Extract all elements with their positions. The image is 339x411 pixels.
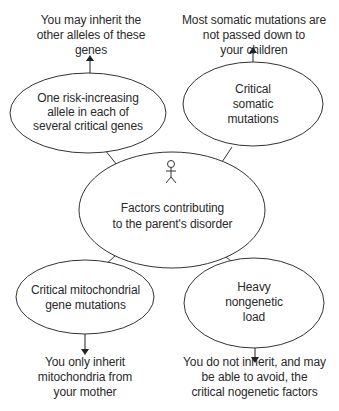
note-mitochondrial: You only inherit mitochondria from your … bbox=[15, 355, 155, 400]
node-nongenetic-label: Heavy nongenetic load bbox=[204, 280, 304, 325]
note-line: genes bbox=[16, 43, 166, 58]
center-label-line: Factors contributing bbox=[95, 200, 250, 216]
node-risk-alleles-label: One risk-increasing allele in each of se… bbox=[18, 91, 158, 133]
note-risk-alleles: You may inherit the other alleles of the… bbox=[16, 13, 166, 58]
node-label-line: mutations bbox=[203, 112, 303, 127]
node-label-line: somatic bbox=[203, 97, 303, 112]
node-label-line: gene mutations bbox=[18, 298, 153, 313]
connector-somatic bbox=[222, 147, 232, 162]
node-label-line: several critical genes bbox=[18, 119, 158, 133]
node-label-line: Critical bbox=[203, 82, 303, 97]
note-line: your children bbox=[174, 43, 334, 58]
note-line: You only inherit bbox=[15, 355, 155, 370]
note-somatic: Most somatic mutations are not passed do… bbox=[174, 13, 334, 58]
node-somatic-label: Critical somatic mutations bbox=[203, 82, 303, 127]
note-line: Most somatic mutations are bbox=[174, 13, 334, 28]
node-label-line: Critical mitochondrial bbox=[18, 283, 153, 298]
node-label-line: nongenetic bbox=[204, 295, 304, 310]
node-label-line: One risk-increasing bbox=[18, 91, 158, 105]
note-line: You may inherit the bbox=[16, 13, 166, 28]
node-label-line: Heavy bbox=[204, 280, 304, 295]
note-line: critical nogenetic factors bbox=[170, 385, 339, 400]
node-label-line: load bbox=[204, 310, 304, 325]
center-label: Factors contributing to the parent's dis… bbox=[95, 200, 250, 232]
note-line: You do not inherit, and may bbox=[170, 355, 339, 370]
note-nongenetic: You do not inherit, and may be able to a… bbox=[170, 355, 339, 400]
note-line: not passed down to bbox=[174, 28, 334, 43]
node-label-line: allele in each of bbox=[18, 105, 158, 119]
center-label-line: to the parent's disorder bbox=[95, 216, 250, 232]
note-line: be able to avoid, the bbox=[170, 370, 339, 385]
note-line: other alleles of these bbox=[16, 28, 166, 43]
note-line: your mother bbox=[15, 385, 155, 400]
node-mitochondrial-label: Critical mitochondrial gene mutations bbox=[18, 283, 153, 313]
note-line: mitochondria from bbox=[15, 370, 155, 385]
